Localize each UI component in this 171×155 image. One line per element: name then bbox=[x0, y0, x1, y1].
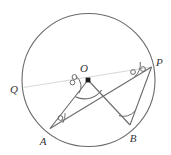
label-A: A bbox=[39, 135, 47, 147]
label-Q: Q bbox=[10, 83, 18, 95]
segment-AP bbox=[50, 67, 152, 129]
segment-BP bbox=[130, 67, 152, 125]
angle-tick-O-2 bbox=[70, 80, 75, 85]
label-B: B bbox=[130, 132, 137, 144]
label-O: O bbox=[80, 62, 88, 74]
segment-OA bbox=[50, 80, 88, 129]
geometry-canvas: O P Q A B bbox=[0, 0, 171, 155]
label-P: P bbox=[155, 56, 163, 68]
center-point-marker-O bbox=[86, 78, 91, 83]
segment-OB bbox=[88, 80, 130, 125]
geometry-diagram: O P Q A B bbox=[0, 0, 171, 155]
